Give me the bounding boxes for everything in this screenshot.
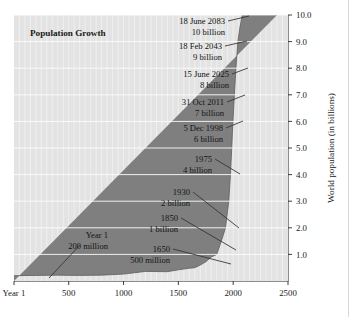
y-tick-label: 4.0 bbox=[296, 170, 308, 180]
annotation-date: Year 1 bbox=[86, 230, 108, 240]
annotation-amount: 4 billion bbox=[183, 165, 213, 175]
y-tick-label: 10.0 bbox=[296, 10, 312, 20]
x-tick-label: 1500 bbox=[170, 288, 188, 298]
y-tick-label: 2.0 bbox=[296, 223, 308, 233]
annotation-amount: 10 billion bbox=[192, 27, 226, 37]
annotation-date: 1650 bbox=[153, 244, 170, 254]
annotation-amount: 200 million bbox=[68, 241, 109, 251]
population-growth-figure: 1.02.03.04.05.06.07.08.09.010.0 Year 150… bbox=[0, 0, 351, 317]
y-tick-label: 3.0 bbox=[296, 196, 308, 206]
population-growth-chart: 1.02.03.04.05.06.07.08.09.010.0 Year 150… bbox=[0, 0, 351, 317]
annotation-date: 1930 bbox=[173, 187, 190, 197]
annotation-date: 5 Dec 1998 bbox=[183, 123, 223, 133]
annotation-amount: 7 billion bbox=[195, 108, 225, 118]
y-tick-label: 9.0 bbox=[296, 37, 308, 47]
y-axis-title: World population (in billions) bbox=[326, 93, 336, 203]
annotation-date: 15 June 2025 bbox=[183, 69, 229, 79]
annotation-amount: 1 billion bbox=[149, 224, 179, 234]
annotation-amount: 500 million bbox=[130, 255, 171, 265]
x-tick-label: 500 bbox=[62, 288, 76, 298]
y-tick-label: 5.0 bbox=[296, 143, 308, 153]
chart-title: Population Growth bbox=[30, 28, 106, 38]
annotation-amount: 9 billion bbox=[193, 52, 223, 62]
annotation-date: 1975 bbox=[195, 154, 212, 164]
annotation-amount: 8 billion bbox=[200, 80, 230, 90]
annotation-amount: 2 billion bbox=[161, 198, 191, 208]
x-tick-label: 1000 bbox=[115, 288, 133, 298]
annotation-date: 18 Feb 2043 bbox=[179, 41, 222, 51]
y-tick-label: 7.0 bbox=[296, 90, 308, 100]
x-tick-label: 2500 bbox=[279, 288, 297, 298]
annotation-date: 31 Oct 2011 bbox=[182, 97, 224, 107]
y-tick-label: 6.0 bbox=[296, 117, 308, 127]
annotation-date: 1850 bbox=[161, 213, 178, 223]
annotation-amount: 6 billion bbox=[194, 134, 224, 144]
x-tick-label: Year 1 bbox=[3, 288, 26, 298]
y-tick-label: 1.0 bbox=[296, 250, 308, 260]
annotation-date: 18 June 2083 bbox=[179, 16, 225, 26]
x-tick-label: 2000 bbox=[224, 288, 242, 298]
y-tick-label: 8.0 bbox=[296, 63, 308, 73]
